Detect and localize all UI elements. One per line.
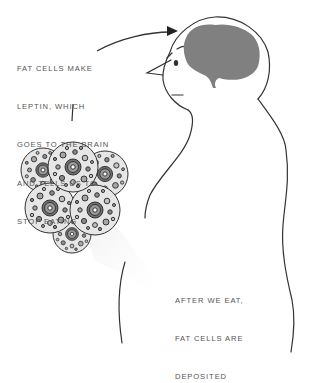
annotation-line: DEPOSITED [175,371,244,383]
annotation-line: FAT CELLS MAKE [17,63,109,76]
annotation-line: LEPTIN, WHICH [17,101,109,114]
annotation-line: FAT CELLS ARE [175,333,244,346]
annotation-line: STOP EATING [17,216,109,229]
annotation-line: GOES TO THE BRAIN [17,139,109,152]
annotation-line: AND TELLS US TO [17,178,109,191]
brain [184,24,260,88]
deposit-annotation: AFTER WE EAT, FAT CELLS ARE DEPOSITED [175,269,244,383]
leptin-annotation: FAT CELLS MAKE LEPTIN, WHICH GOES TO THE… [17,37,109,255]
eye [174,60,178,66]
arrow-head [167,26,178,36]
annotation-line: AFTER WE EAT, [175,295,244,308]
